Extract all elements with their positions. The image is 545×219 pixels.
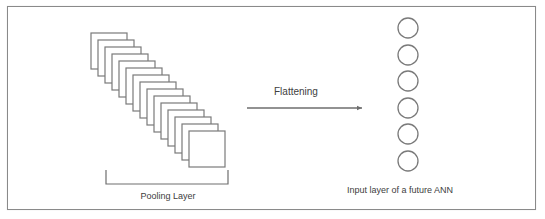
input-node xyxy=(398,71,418,91)
input-node xyxy=(398,18,418,38)
input-node xyxy=(398,151,418,171)
input-node xyxy=(398,45,418,65)
flattening-label: Flattening xyxy=(274,86,318,97)
input-node xyxy=(398,124,418,144)
pooling-layer-stack xyxy=(91,33,225,167)
input-layer-nodes xyxy=(398,18,418,171)
pooling-layer-bracket xyxy=(106,170,228,184)
feature-map xyxy=(189,131,225,167)
input-node xyxy=(398,98,418,118)
pooling-layer-label: Pooling Layer xyxy=(108,191,228,201)
diagram-canvas xyxy=(0,0,545,219)
input-layer-label: Input layer of a future ANN xyxy=(340,185,460,195)
